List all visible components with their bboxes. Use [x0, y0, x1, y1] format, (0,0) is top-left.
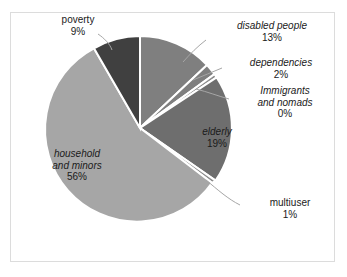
pie-label-multiuser-name: multiuser — [242, 197, 338, 209]
pie-label-immigrants-and-nomads: Immigrants and nomads 0% — [232, 85, 338, 120]
pie-label-household-and-minors-line1: household — [26, 148, 128, 160]
pie-label-poverty-percent: 9% — [42, 26, 114, 38]
pie-label-household-and-minors-percent: 56% — [26, 171, 128, 183]
leader-line-multiuser — [206, 180, 240, 205]
pie-label-dependencies-percent: 2% — [224, 69, 338, 81]
pie-label-household-and-minors: household and minors 56% — [26, 148, 128, 183]
pie-label-disabled-people-percent: 13% — [206, 32, 338, 44]
pie-label-immigrants-and-nomads-line1: Immigrants — [232, 85, 338, 97]
pie-label-dependencies-name: dependencies — [224, 57, 338, 69]
pie-label-multiuser-percent: 1% — [242, 209, 338, 221]
pie-label-elderly: elderly 19% — [186, 126, 248, 149]
pie-label-poverty: poverty 9% — [42, 14, 114, 37]
pie-label-disabled-people: disabled people 13% — [206, 20, 338, 43]
pie-label-elderly-percent: 19% — [186, 138, 248, 150]
pie-label-poverty-name: poverty — [42, 14, 114, 26]
pie-label-multiuser: multiuser 1% — [242, 197, 338, 220]
pie-label-disabled-people-name: disabled people — [206, 20, 338, 32]
pie-chart-figure: poverty 9% disabled people 13% dependenc… — [0, 0, 347, 277]
pie-label-household-and-minors-line2: and minors — [26, 160, 128, 172]
pie-label-dependencies: dependencies 2% — [224, 57, 338, 80]
pie-label-elderly-name: elderly — [186, 126, 248, 138]
pie-label-immigrants-and-nomads-percent: 0% — [232, 108, 338, 120]
pie-label-immigrants-and-nomads-line2: and nomads — [232, 97, 338, 109]
